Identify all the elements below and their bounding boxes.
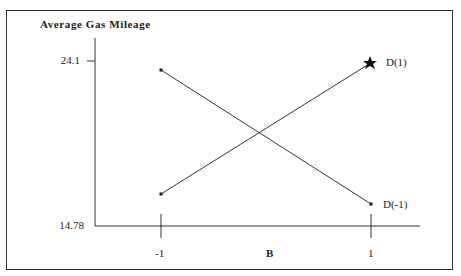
- series-dm1-point-right: [369, 202, 373, 206]
- series-label-dm1: D(-1): [383, 198, 407, 210]
- star-marker-icon: [363, 56, 377, 69]
- series-dm1-point-left: [159, 68, 163, 72]
- series-dm1-line: [161, 70, 371, 204]
- x-tick-label-left: -1: [155, 247, 164, 259]
- y-tick-label-bottom: 14.78: [34, 219, 84, 231]
- series-d1-point-left: [159, 192, 163, 196]
- y-tick-label-top: 24.1: [30, 54, 80, 66]
- plot-area: [0, 0, 461, 276]
- series-label-d1: D(1): [386, 56, 407, 68]
- x-axis-title: B: [266, 247, 273, 259]
- x-tick-label-right: 1: [368, 247, 374, 259]
- series-d1-line: [161, 64, 369, 194]
